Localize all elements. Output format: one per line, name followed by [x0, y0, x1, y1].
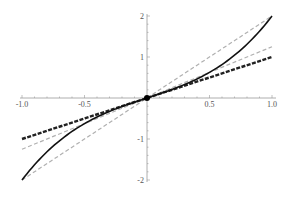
x-tick-label: -1.0: [16, 100, 29, 109]
x-tick-label: 0.5: [205, 100, 215, 109]
origin-point: [144, 95, 150, 101]
x-tick-label: 1.0: [267, 100, 277, 109]
y-tick-label: -2: [137, 176, 144, 185]
y-tick-label: 1: [140, 53, 144, 62]
plot-canvas: -1.0-0.50.51.0-2-112: [0, 0, 291, 199]
y-tick-label: -1: [137, 135, 144, 144]
x-tick-label: -0.5: [78, 100, 91, 109]
y-tick-label: 2: [140, 12, 144, 21]
